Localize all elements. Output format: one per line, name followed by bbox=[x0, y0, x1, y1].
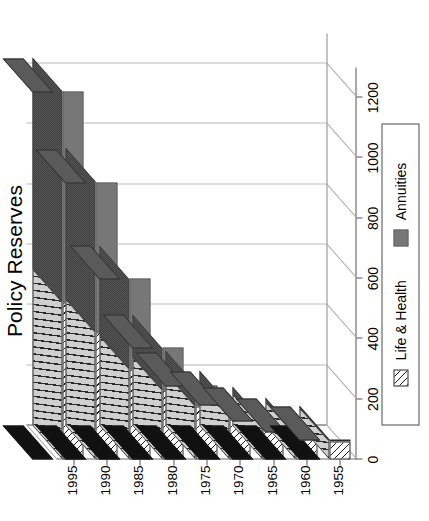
category-tick-mark bbox=[139, 459, 140, 465]
value-tick-mark bbox=[356, 217, 362, 218]
chart-legend: Life & Health Annuities bbox=[381, 123, 419, 425]
depth-rib bbox=[326, 123, 357, 158]
value-tick-label: 800 bbox=[364, 188, 380, 248]
category-tick-mark bbox=[339, 459, 340, 465]
category-tick-mark bbox=[273, 459, 274, 465]
value-tick-mark bbox=[356, 337, 362, 338]
value-tick-label: 1200 bbox=[364, 67, 380, 127]
category-tick-mark bbox=[173, 459, 174, 465]
hatch-swatch-icon bbox=[393, 369, 408, 386]
depth-rib bbox=[326, 304, 357, 339]
bar-front-face bbox=[329, 439, 350, 441]
value-tick-label: 400 bbox=[364, 308, 380, 368]
value-tick-label: 0 bbox=[364, 429, 380, 489]
legend-item-life-health: Life & Health bbox=[392, 280, 408, 386]
plot-area bbox=[56, 67, 356, 459]
value-tick-label: 600 bbox=[364, 248, 380, 308]
depth-rib bbox=[326, 364, 357, 399]
stipple-swatch-icon bbox=[393, 229, 408, 246]
depth-rib bbox=[326, 183, 357, 218]
category-tick-mark bbox=[206, 459, 207, 465]
category-tick-mark bbox=[306, 459, 307, 465]
chart-figure: Policy Reserves U.S. Life Companies ($ b… bbox=[0, 0, 429, 521]
category-tick-label: 1975 bbox=[197, 465, 212, 509]
value-tick-mark bbox=[356, 277, 362, 278]
category-tick-mark bbox=[73, 459, 74, 465]
value-tick-mark bbox=[356, 398, 362, 399]
category-tick-label: 1965 bbox=[264, 465, 279, 509]
value-tick-label: 200 bbox=[364, 369, 380, 429]
category-tick-mark bbox=[106, 459, 107, 465]
category-tick-label: 1985 bbox=[130, 465, 145, 509]
value-gridline bbox=[26, 62, 326, 63]
value-tick-mark bbox=[356, 458, 362, 459]
category-tick-label: 1970 bbox=[230, 465, 245, 509]
category-tick-label: 1960 bbox=[297, 465, 312, 509]
category-axis-line bbox=[355, 67, 356, 459]
depth-rib bbox=[326, 63, 357, 98]
category-tick-label: 1990 bbox=[97, 465, 112, 509]
legend-label-annuities: Annuities bbox=[392, 162, 408, 220]
category-tick-mark bbox=[239, 459, 240, 465]
value-tick-mark bbox=[356, 156, 362, 157]
depth-rib bbox=[326, 243, 357, 278]
category-tick-label: 1995 bbox=[64, 465, 79, 509]
chart-screenshot: Policy Reserves U.S. Life Companies ($ b… bbox=[0, 0, 429, 521]
value-tick-label: 1000 bbox=[364, 127, 380, 187]
value-tick-mark bbox=[356, 96, 362, 97]
legend-label-life-health: Life & Health bbox=[392, 280, 408, 360]
bar-segment bbox=[329, 439, 350, 441]
bar-top-face bbox=[32, 57, 62, 302]
legend-item-annuities: Annuities bbox=[392, 162, 408, 246]
category-tick-label: 1980 bbox=[164, 465, 179, 509]
bar-front-face bbox=[329, 441, 350, 459]
bar-segment bbox=[329, 441, 350, 459]
category-tick-label: 1955 bbox=[330, 465, 345, 509]
back-wall-base bbox=[326, 33, 327, 425]
